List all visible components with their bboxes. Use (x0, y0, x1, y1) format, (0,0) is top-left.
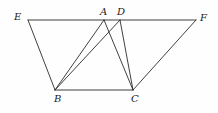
segment-AC (104, 20, 133, 90)
vertex-label-B: B (54, 94, 61, 104)
segment-layer (28, 20, 196, 90)
vertex-label-D: D (117, 7, 125, 17)
segment-CF (133, 20, 196, 90)
segment-AB (55, 20, 104, 90)
vertex-label-A: A (100, 7, 107, 17)
geometry-canvas (0, 0, 218, 113)
geometry-figure: E A D F B C (0, 0, 218, 113)
vertex-label-E: E (14, 12, 21, 22)
segment-DB (55, 20, 120, 90)
segment-DC (120, 20, 133, 90)
vertex-label-C: C (131, 94, 139, 104)
vertex-label-F: F (200, 13, 207, 23)
segment-EB (28, 20, 55, 90)
